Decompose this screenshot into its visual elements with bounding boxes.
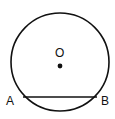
center-point xyxy=(58,64,63,69)
point-a-label: A xyxy=(6,94,14,108)
circle-diagram: O A B xyxy=(0,0,115,119)
point-b-label: B xyxy=(101,94,109,108)
center-label: O xyxy=(55,46,64,60)
